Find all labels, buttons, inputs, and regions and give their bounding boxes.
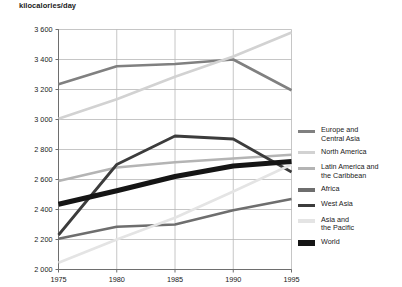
legend-item-6[interactable]: World (298, 238, 402, 249)
y-tick-label-2800: 2 800 (34, 145, 52, 154)
y-tick-label-2600: 2 600 (34, 175, 52, 184)
y-tick-label-3600: 3 600 (34, 25, 52, 34)
legend-item-0[interactable]: Europe and Central Asia (298, 126, 402, 143)
legend-swatch-icon-6 (298, 240, 315, 246)
y-tick-label-2000: 2 000 (34, 265, 52, 274)
x-axis-tick-labels: 19751980198519901995 (50, 275, 299, 284)
legend-swatch-icon-0 (298, 130, 315, 133)
y-axis-unit-title: kilocalories/day (19, 1, 76, 10)
y-axis-tick-labels: 2 0002 2002 4002 6002 8003 0003 2003 400… (34, 25, 52, 274)
legend-swatch-icon-3 (298, 188, 315, 191)
x-tick-label-1995: 1995 (283, 275, 299, 284)
y-tick-label-2400: 2 400 (34, 205, 52, 214)
legend-label-1: North America (321, 148, 367, 157)
legend-label-4: West Asia (321, 200, 353, 209)
kilocalories-per-day-line-chart: kilocalories/day 2 0002 2002 4002 6002 8… (0, 0, 402, 287)
y-tick-label-3400: 3 400 (34, 55, 52, 64)
legend-label-2: Latin America and the Caribbean (321, 163, 379, 180)
legend-swatch-icon-1 (298, 151, 315, 154)
legend-label-5: Asia and the Pacific (321, 216, 354, 233)
legend-item-1[interactable]: North America (298, 148, 402, 159)
x-tick-label-1990: 1990 (225, 275, 241, 284)
x-tick-label-1975: 1975 (50, 275, 66, 284)
chart-legend: Europe and Central AsiaNorth AmericaLati… (298, 126, 402, 253)
legend-swatch-icon-5 (298, 219, 315, 222)
legend-label-3: Africa (321, 185, 339, 194)
legend-item-5[interactable]: Asia and the Pacific (298, 216, 402, 233)
legend-label-0: Europe and Central Asia (321, 126, 360, 143)
x-tick-label-1985: 1985 (167, 275, 183, 284)
y-tick-label-3000: 3 000 (34, 115, 52, 124)
legend-swatch-icon-2 (298, 167, 315, 170)
legend-label-6: World (321, 238, 340, 247)
legend-item-2[interactable]: Latin America and the Caribbean (298, 163, 402, 180)
y-tick-label-2200: 2 200 (34, 235, 52, 244)
y-tick-label-3200: 3 200 (34, 85, 52, 94)
legend-swatch-icon-4 (298, 204, 315, 207)
x-tick-label-1980: 1980 (109, 275, 125, 284)
legend-item-3[interactable]: Africa (298, 185, 402, 196)
legend-item-4[interactable]: West Asia (298, 200, 402, 211)
